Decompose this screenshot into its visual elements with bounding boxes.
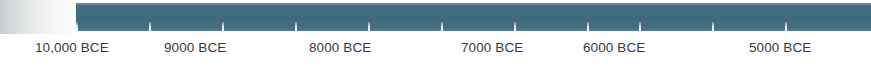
timeline-chart: 10,000 BCE9000 BCE8000 BCE7000 BCE6000 B… bbox=[0, 0, 871, 69]
axis-tick-label: 9000 BCE bbox=[164, 40, 226, 55]
axis-bar-highlight bbox=[76, 3, 871, 5]
axis-tick-label: 6000 BCE bbox=[583, 40, 645, 55]
axis-tick-label: 8000 BCE bbox=[309, 40, 371, 55]
axis-tick bbox=[368, 22, 370, 31]
axis-tick bbox=[587, 22, 589, 31]
axis-tick bbox=[712, 22, 714, 31]
axis-tick bbox=[639, 22, 641, 31]
axis-tick bbox=[76, 22, 78, 31]
axis-tick bbox=[514, 22, 516, 31]
axis-tick-label: 5000 BCE bbox=[749, 40, 811, 55]
axis-tick-label: 10,000 BCE bbox=[35, 40, 109, 55]
axis-tick bbox=[785, 22, 787, 31]
axis-tick bbox=[441, 22, 443, 31]
timeline-axis-bar bbox=[76, 3, 871, 31]
axis-tick bbox=[295, 22, 297, 31]
axis-tick-label: 7000 BCE bbox=[461, 40, 523, 55]
axis-tick bbox=[149, 22, 151, 31]
page-edge-shadow bbox=[0, 0, 78, 34]
axis-tick bbox=[222, 22, 224, 31]
